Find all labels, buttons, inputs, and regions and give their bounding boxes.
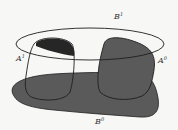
set-a0-region	[98, 38, 155, 100]
label-a1: A1	[15, 53, 25, 63]
set-diagram: B1 A1 A0 B0	[0, 0, 178, 130]
label-a0: A0	[157, 55, 168, 65]
label-b0: B0	[94, 116, 105, 126]
label-b1: B1	[113, 11, 123, 21]
